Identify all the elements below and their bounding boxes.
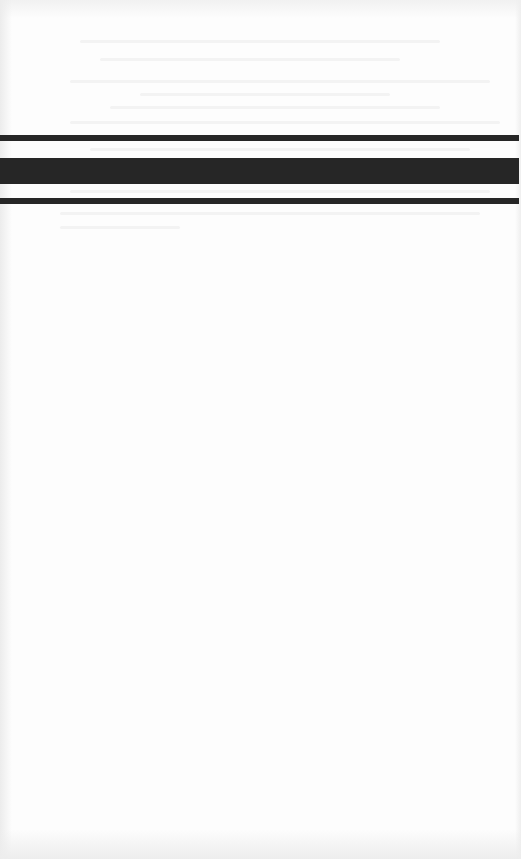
bleed-line: [70, 80, 490, 83]
thick-rule: [0, 158, 519, 184]
bleed-line: [110, 106, 440, 109]
bleed-line: [60, 226, 180, 229]
bottom-thin-rule: [0, 198, 519, 204]
scan-edge-shadow-right: [515, 0, 521, 859]
document-page: [0, 0, 521, 859]
bleed-line: [60, 212, 480, 215]
bleed-line: [70, 121, 500, 124]
top-thin-rule: [0, 135, 519, 141]
scan-edge-shadow-bottom: [0, 829, 521, 859]
scan-edge-shadow-top: [0, 0, 521, 18]
bleed-line: [70, 190, 490, 193]
bleed-line: [80, 40, 440, 43]
bleed-line: [90, 148, 470, 151]
bleed-line: [100, 58, 400, 61]
bleed-line: [140, 93, 390, 96]
scan-edge-shadow-left: [0, 0, 12, 859]
